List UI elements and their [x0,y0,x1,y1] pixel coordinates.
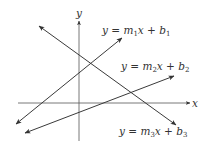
x-axis-label: x [192,97,198,109]
linear-equations-diagram: x y y = m1x + b1 y = m2x + b2 y = m3x + … [0,0,205,149]
line-2 [25,76,174,133]
y-axis-label: y [75,7,83,19]
line-3 [39,26,176,125]
line-2-label: y = m2x + b2 [120,60,189,74]
line-1-label: y = m1x + b1 [101,24,170,38]
line-3-label: y = m3x + b3 [118,125,187,139]
line-1 [16,38,122,124]
